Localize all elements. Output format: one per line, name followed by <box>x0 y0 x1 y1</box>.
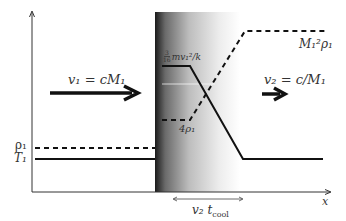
final-density-label: M₁²ρ₁ <box>299 37 333 51</box>
post-shock-temperature-label: 3 16 mv₁²/k <box>163 50 201 63</box>
v2-label: v₂ = c/M₁ <box>264 72 326 87</box>
cooling-length-span-icon <box>173 197 243 201</box>
v1-arrow-icon <box>50 86 138 100</box>
T1-label: T₁ <box>14 151 27 165</box>
v1-label: v₁ = cM₁ <box>68 72 126 87</box>
cooling-length-sub: cool <box>212 210 229 219</box>
v2-arrow-icon <box>262 88 285 100</box>
shock-gradient-region <box>155 12 240 192</box>
y-axis <box>30 11 35 192</box>
shock-diagram: v₁ = cM₁ v₂ = c/M₁ ρ₁ T₁ 3 16 mv₁²/k 4ρ₁… <box>0 0 346 221</box>
cooling-length-main: v₂ t <box>192 203 212 217</box>
x-axis-label: x <box>322 195 328 208</box>
frac-rest: mv₁²/k <box>172 52 201 62</box>
post-shock-density-label: 4ρ₁ <box>179 123 195 134</box>
frac-denominator: 16 <box>163 57 171 63</box>
diagram-canvas <box>0 0 346 221</box>
rho1-label: ρ₁ <box>15 138 27 152</box>
cooling-length-label: v₂ tcool <box>192 203 229 219</box>
